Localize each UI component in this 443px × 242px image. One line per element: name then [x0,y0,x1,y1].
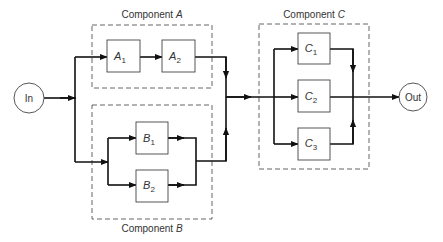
wire-a2-out [195,57,226,98]
output-terminal: Out [399,83,427,111]
component-c-label: Component C [283,9,345,20]
block-a1: A1 [107,40,140,72]
block-b1: B1 [136,122,168,154]
wire-b-out [196,98,226,161]
reliability-diagram: Component A Component B Component C [0,0,443,242]
component-b-label: Component B [121,223,182,234]
input-terminal: In [14,83,44,113]
block-c3: C3 [298,128,330,160]
block-b2: B2 [136,170,168,202]
block-c2: C2 [298,80,330,112]
wires [44,49,399,185]
component-a-label: Component A [121,9,182,20]
output-label: Out [405,92,421,103]
wire-b-merge [168,138,196,185]
block-a2: A2 [162,40,195,72]
input-label: In [25,93,33,104]
block-c1: C1 [298,33,330,64]
